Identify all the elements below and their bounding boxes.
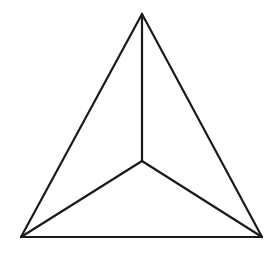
figure-background xyxy=(0,0,279,254)
tetrahedron-wireframe-svg xyxy=(0,0,279,254)
figure-canvas xyxy=(0,0,279,254)
